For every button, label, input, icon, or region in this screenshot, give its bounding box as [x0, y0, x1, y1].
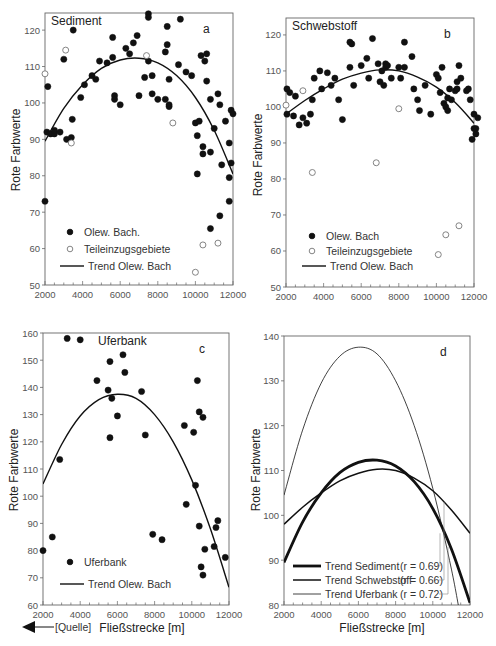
filled-point — [284, 111, 290, 117]
filled-point — [110, 34, 116, 40]
open-point — [300, 88, 306, 94]
y-tick-label: 110 — [266, 65, 281, 76]
filled-point — [105, 387, 111, 393]
filled-point — [189, 73, 195, 79]
filled-point — [304, 120, 310, 126]
y-tick-label: 150 — [22, 355, 38, 366]
legend-marker — [67, 246, 73, 252]
filled-point — [416, 107, 422, 113]
x-tick-label: 2000 — [32, 609, 53, 620]
x-tick-label: 8000 — [147, 289, 168, 300]
legend-label: Olew. Bach. — [84, 226, 140, 238]
filled-point — [347, 64, 353, 70]
filled-point — [177, 16, 183, 22]
x-tick-label: 2000 — [34, 289, 55, 300]
filled-point — [222, 554, 228, 560]
filled-point — [149, 73, 155, 79]
y-tick-label: 100 — [24, 97, 40, 108]
filled-point — [415, 97, 421, 103]
y-tick-label: 80 — [270, 173, 281, 184]
filled-point — [196, 409, 202, 415]
filled-point — [369, 35, 375, 41]
x-axis-title-c: Fließstrecke [m] — [99, 621, 184, 635]
filled-point — [292, 93, 298, 99]
x-axis-title-d: Fließstrecke [m] — [339, 621, 424, 635]
open-point — [170, 120, 176, 126]
filled-point — [401, 64, 407, 70]
open-point — [63, 47, 69, 53]
legend-label: Trend Olew. Bach — [88, 578, 171, 590]
x-tick-label: 6000 — [107, 609, 128, 620]
y-axis-title-d: Rote Farbwerte — [249, 428, 263, 511]
filled-point — [93, 76, 99, 82]
x-tick-label: 2000 — [273, 609, 294, 620]
y-tick-label: 120 — [22, 436, 38, 447]
filled-point — [183, 501, 189, 507]
filled-point — [200, 572, 206, 578]
filled-point — [192, 482, 198, 488]
filled-point — [207, 96, 213, 102]
open-point — [309, 169, 315, 175]
filled-point — [287, 89, 293, 95]
y-tick-label: 120 — [265, 29, 281, 40]
filled-point — [230, 111, 236, 117]
filled-point — [40, 548, 46, 554]
filled-point — [166, 102, 172, 108]
filled-point — [296, 122, 302, 128]
x-tick-label: 12000 — [220, 289, 246, 300]
filled-point — [81, 82, 87, 88]
filled-point — [473, 131, 479, 137]
filled-point — [202, 58, 208, 64]
filled-point — [213, 524, 219, 530]
filled-point — [175, 62, 181, 68]
y-tick-label: 90 — [268, 555, 279, 566]
filled-point — [162, 49, 168, 55]
filled-point — [319, 86, 325, 92]
open-point — [42, 71, 48, 77]
filled-point — [194, 133, 200, 139]
open-point — [192, 269, 198, 275]
filled-point — [366, 75, 372, 81]
filled-point — [324, 70, 330, 76]
filled-point — [142, 432, 148, 438]
filled-point — [117, 102, 123, 108]
y-tick-label: 110 — [25, 61, 40, 72]
filled-point — [467, 97, 473, 103]
filled-point — [166, 76, 172, 82]
filled-point — [162, 96, 168, 102]
legend-label: Uferbank — [84, 556, 127, 568]
open-point — [435, 252, 441, 258]
filled-point — [42, 198, 48, 204]
filled-point — [226, 198, 232, 204]
x-tick-label: 8000 — [388, 291, 409, 302]
filled-point — [45, 83, 51, 89]
y-axis-title-a: Rote Farbwerte — [9, 108, 23, 191]
x-tick-label: 8000 — [144, 609, 165, 620]
legend-marker — [67, 229, 73, 235]
y-tick-label: 100 — [263, 510, 279, 521]
filled-point — [155, 96, 161, 102]
legend-label: Olew. Bach — [326, 230, 379, 242]
filled-point — [311, 75, 317, 81]
y-tick-label: 100 — [265, 101, 281, 112]
filled-point — [401, 39, 407, 45]
filled-point — [351, 82, 357, 88]
filled-point — [198, 53, 204, 59]
filled-point — [217, 102, 223, 108]
filled-point — [200, 414, 206, 420]
y-tick-label: 160 — [22, 328, 38, 339]
filled-point — [211, 125, 217, 131]
x-tick-label: 4000 — [72, 289, 93, 300]
filled-point — [70, 27, 76, 33]
y-tick-label: 70 — [29, 207, 40, 218]
panel-letter: d — [440, 345, 447, 359]
filled-point — [202, 546, 208, 552]
y-tick-label: 80 — [29, 170, 40, 181]
panel-sediment: 5060708090100110120200040006000800010000… — [24, 11, 246, 300]
filled-point — [422, 82, 428, 88]
filled-point — [211, 543, 217, 549]
y-tick-label: 90 — [27, 518, 38, 529]
filled-point — [136, 93, 142, 99]
panel-letter: b — [444, 27, 451, 41]
arrow-left-icon — [22, 621, 35, 633]
